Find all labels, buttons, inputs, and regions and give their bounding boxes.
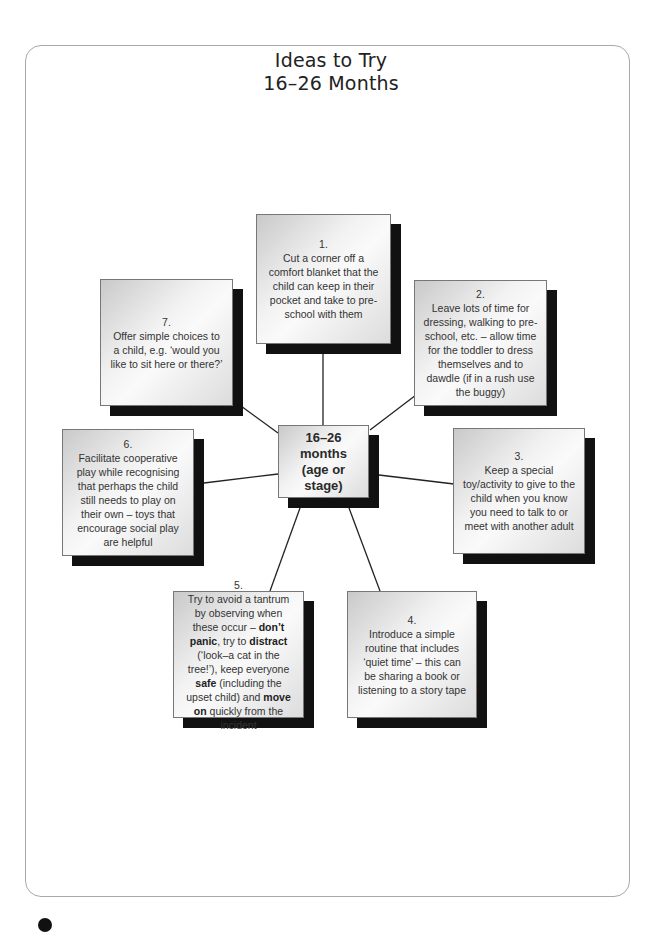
idea-number: 3. [515,449,524,463]
center-line-2: months [300,446,347,462]
idea-number: 2. [476,287,485,301]
connector-5 [270,508,300,591]
idea-number: 7. [162,315,171,329]
idea-number: 1. [319,237,328,251]
idea-text-segment: , try to [217,635,249,647]
idea-text: Cut a corner off a comfort blanket that … [265,251,382,321]
connector-6 [204,474,278,483]
idea-box-5: 5. Try to avoid a tantrum by observing w… [173,591,304,718]
idea-text-emphasis: safe [195,677,216,689]
connector-3 [379,475,454,484]
idea-box-6: 6. Facilitate cooperative play while rec… [62,429,194,556]
idea-box-4: 4. Introduce a simple routine that inclu… [347,591,477,718]
idea-text-segment: quickly from the incident [207,705,283,731]
connector-2 [370,395,416,430]
idea-text-segment: Facilitate cooperative play while recogn… [77,452,180,548]
idea-text-segment: (‘look–a cat in the tree!’), keep everyo… [188,649,290,675]
idea-text: Leave lots of time for dressing, walking… [423,301,538,399]
page-corner-mark [38,918,52,932]
connector-4 [349,508,380,591]
idea-text-segment: Cut a corner off a comfort blanket that … [269,252,379,320]
idea-box-2: 2. Leave lots of time for dressing, walk… [414,280,547,406]
idea-number: 6. [124,437,133,451]
idea-box-1: 1. Cut a corner off a comfort blanket th… [256,214,391,344]
idea-text-segment: Keep a special toy/activity to give to t… [463,464,575,532]
idea-number: 5. [234,578,243,592]
center-topic-box: 16–26 months (age or stage) [278,425,369,498]
idea-text-segment: Leave lots of time for dressing, walking… [424,302,538,398]
idea-text: Keep a special toy/activity to give to t… [462,463,576,533]
idea-number: 4. [408,613,417,627]
connector-7 [241,406,278,433]
idea-text-emphasis: distract [249,635,287,647]
idea-text-segment: Offer simple choices to a child, e.g. ‘w… [110,330,222,370]
idea-text: Offer simple choices to a child, e.g. ‘w… [109,329,224,371]
center-line-1: 16–26 [305,430,341,446]
idea-text-segment: Introduce a simple routine that includes… [358,628,466,696]
idea-box-3: 3. Keep a special toy/activity to give t… [453,428,585,554]
idea-text: Try to avoid a tantrum by observing when… [182,592,295,732]
idea-box-7: 7. Offer simple choices to a child, e.g.… [100,279,233,406]
idea-text: Facilitate cooperative play while recogn… [71,451,185,549]
center-line-3: (age or stage) [287,462,360,494]
idea-text: Introduce a simple routine that includes… [356,627,468,697]
